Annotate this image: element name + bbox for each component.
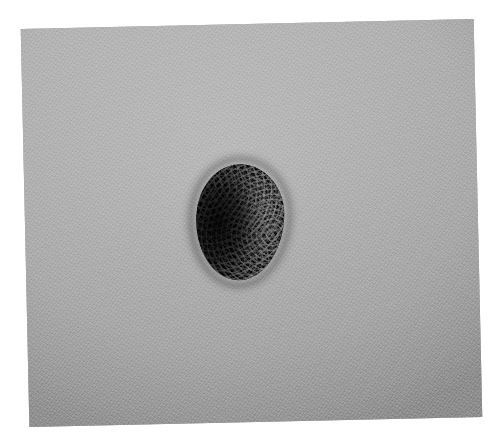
page-canvas <box>0 0 496 445</box>
clinical-photograph <box>21 19 483 427</box>
pigmented-lesion <box>193 162 286 282</box>
